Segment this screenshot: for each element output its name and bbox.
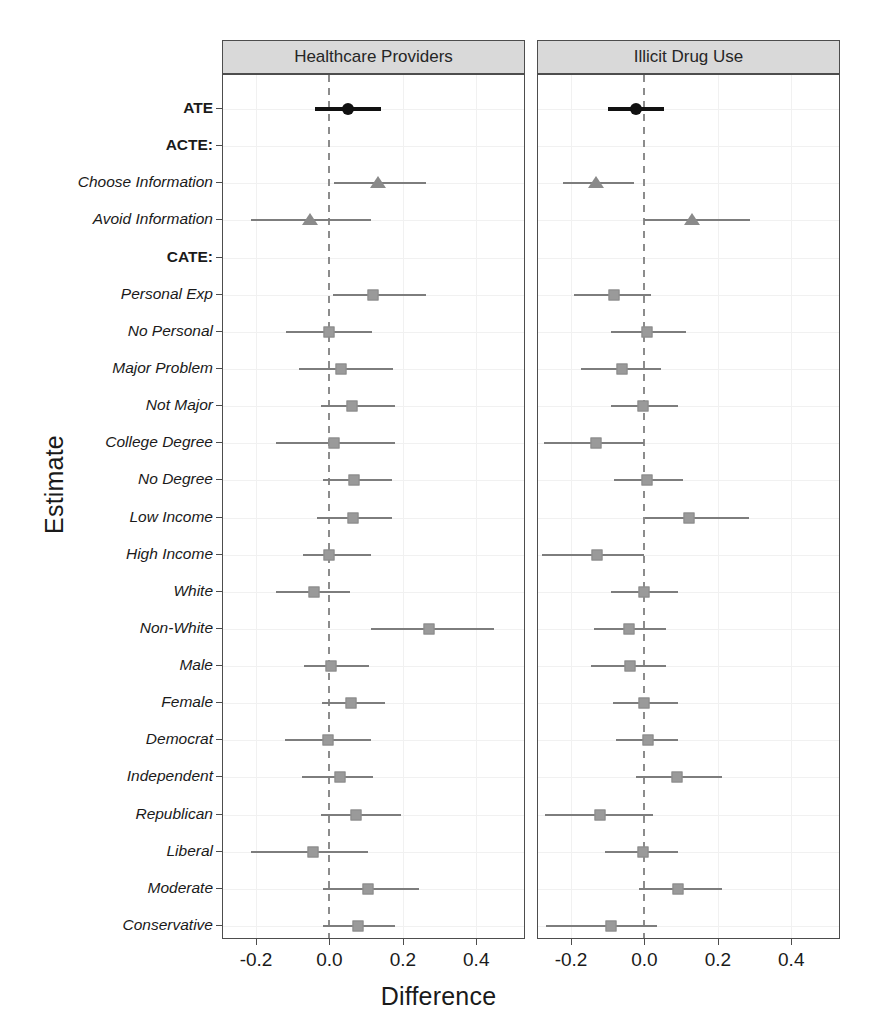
estimate-marker[interactable]	[624, 623, 635, 634]
estimate-marker[interactable]	[684, 213, 700, 225]
y-axis-tick	[216, 182, 222, 183]
estimate-marker[interactable]	[308, 586, 319, 597]
estimate-marker[interactable]	[326, 661, 337, 672]
panel-header-healthcare: Healthcare Providers	[222, 40, 525, 74]
x-axis-title: Difference	[0, 982, 877, 1011]
y-axis-tick	[216, 219, 222, 220]
estimate-marker[interactable]	[302, 213, 318, 225]
gridline-horizontal	[538, 109, 839, 110]
estimate-marker[interactable]	[673, 883, 684, 894]
y-axis-tick-label: Independent	[10, 767, 222, 785]
x-axis-tick-label: 0.0	[316, 949, 342, 971]
y-axis-tick	[216, 702, 222, 703]
gridline-horizontal	[538, 666, 839, 667]
y-axis-tick-label: White	[10, 582, 222, 600]
gridline-vertical	[718, 75, 719, 938]
y-axis-tick-label: Personal Exp	[10, 285, 222, 303]
estimate-marker[interactable]	[345, 698, 356, 709]
y-axis-tick	[216, 331, 222, 332]
y-axis-tick	[216, 405, 222, 406]
estimate-marker[interactable]	[362, 883, 373, 894]
y-axis-tick-label: Male	[10, 656, 222, 674]
estimate-marker[interactable]	[642, 326, 653, 337]
estimate-marker[interactable]	[630, 103, 642, 115]
estimate-marker[interactable]	[370, 176, 386, 188]
estimate-marker[interactable]	[590, 438, 601, 449]
estimate-marker[interactable]	[588, 176, 604, 188]
y-axis-tick	[216, 368, 222, 369]
estimate-marker[interactable]	[638, 698, 649, 709]
x-axis-tick	[476, 939, 477, 945]
x-axis-tick	[571, 939, 572, 945]
zero-reference-line	[328, 75, 330, 938]
y-axis-tick-label: Republican	[10, 805, 222, 823]
estimate-marker[interactable]	[591, 549, 602, 560]
gridline-horizontal	[538, 146, 839, 147]
y-axis-tick	[216, 442, 222, 443]
y-axis-tick-label: Democrat	[10, 730, 222, 748]
estimate-marker[interactable]	[624, 661, 635, 672]
y-axis-tick	[216, 665, 222, 666]
y-axis-tick	[216, 294, 222, 295]
estimate-marker[interactable]	[323, 549, 334, 560]
y-axis-tick-label: High Income	[10, 545, 222, 563]
zero-reference-line	[643, 75, 645, 938]
panel-header-label: Illicit Drug Use	[634, 47, 744, 67]
y-axis-tick-label: ATE	[10, 99, 222, 117]
estimate-marker[interactable]	[637, 846, 648, 857]
y-axis-tick-label: No Degree	[10, 470, 222, 488]
estimate-marker[interactable]	[637, 401, 648, 412]
estimate-marker[interactable]	[609, 289, 620, 300]
gridline-horizontal	[538, 480, 839, 481]
gridline-horizontal	[538, 852, 839, 853]
estimate-marker[interactable]	[342, 103, 354, 115]
gridline-horizontal	[223, 146, 524, 147]
estimate-marker[interactable]	[353, 921, 364, 932]
y-axis-tick-label: Liberal	[10, 842, 222, 860]
estimate-marker[interactable]	[328, 438, 339, 449]
estimate-marker[interactable]	[683, 512, 694, 523]
gridline-horizontal	[223, 332, 524, 333]
estimate-marker[interactable]	[336, 363, 347, 374]
y-axis-tick	[216, 776, 222, 777]
estimate-marker[interactable]	[594, 809, 605, 820]
gridline-horizontal	[223, 555, 524, 556]
estimate-marker[interactable]	[617, 363, 628, 374]
gridline-horizontal	[223, 258, 524, 259]
gridline-vertical	[791, 75, 792, 938]
gridline-horizontal	[538, 592, 839, 593]
estimate-marker[interactable]	[643, 735, 654, 746]
estimate-marker[interactable]	[349, 475, 360, 486]
y-axis-tick-label: Conservative	[10, 916, 222, 934]
y-axis-tick-label: Low Income	[10, 508, 222, 526]
y-axis-tick	[216, 851, 222, 852]
estimate-marker[interactable]	[639, 586, 650, 597]
estimate-marker[interactable]	[671, 772, 682, 783]
gridline-horizontal	[223, 740, 524, 741]
estimate-marker[interactable]	[348, 512, 359, 523]
gridline-horizontal	[223, 666, 524, 667]
estimate-marker[interactable]	[642, 475, 653, 486]
y-axis-tick	[216, 108, 222, 109]
estimate-marker[interactable]	[307, 846, 318, 857]
y-axis-tick-label: College Degree	[10, 433, 222, 451]
y-axis-tick-label: CATE:	[10, 248, 222, 266]
panel-header-label: Healthcare Providers	[294, 47, 453, 67]
gridline-horizontal	[538, 406, 839, 407]
estimate-marker[interactable]	[322, 735, 333, 746]
y-axis-tick	[216, 925, 222, 926]
estimate-marker[interactable]	[367, 289, 378, 300]
confidence-interval	[333, 294, 426, 296]
estimate-marker[interactable]	[606, 921, 617, 932]
y-axis-tick	[216, 888, 222, 889]
x-axis-tick	[644, 939, 645, 945]
panel-healthcare-providers	[222, 74, 525, 939]
x-axis-tick-label: 0.4	[463, 949, 489, 971]
x-axis-tick-label: -0.2	[555, 949, 588, 971]
estimate-marker[interactable]	[424, 623, 435, 634]
estimate-marker[interactable]	[335, 772, 346, 783]
estimate-marker[interactable]	[350, 809, 361, 820]
x-axis-tick-label: 0.2	[390, 949, 416, 971]
estimate-marker[interactable]	[323, 326, 334, 337]
estimate-marker[interactable]	[347, 401, 358, 412]
